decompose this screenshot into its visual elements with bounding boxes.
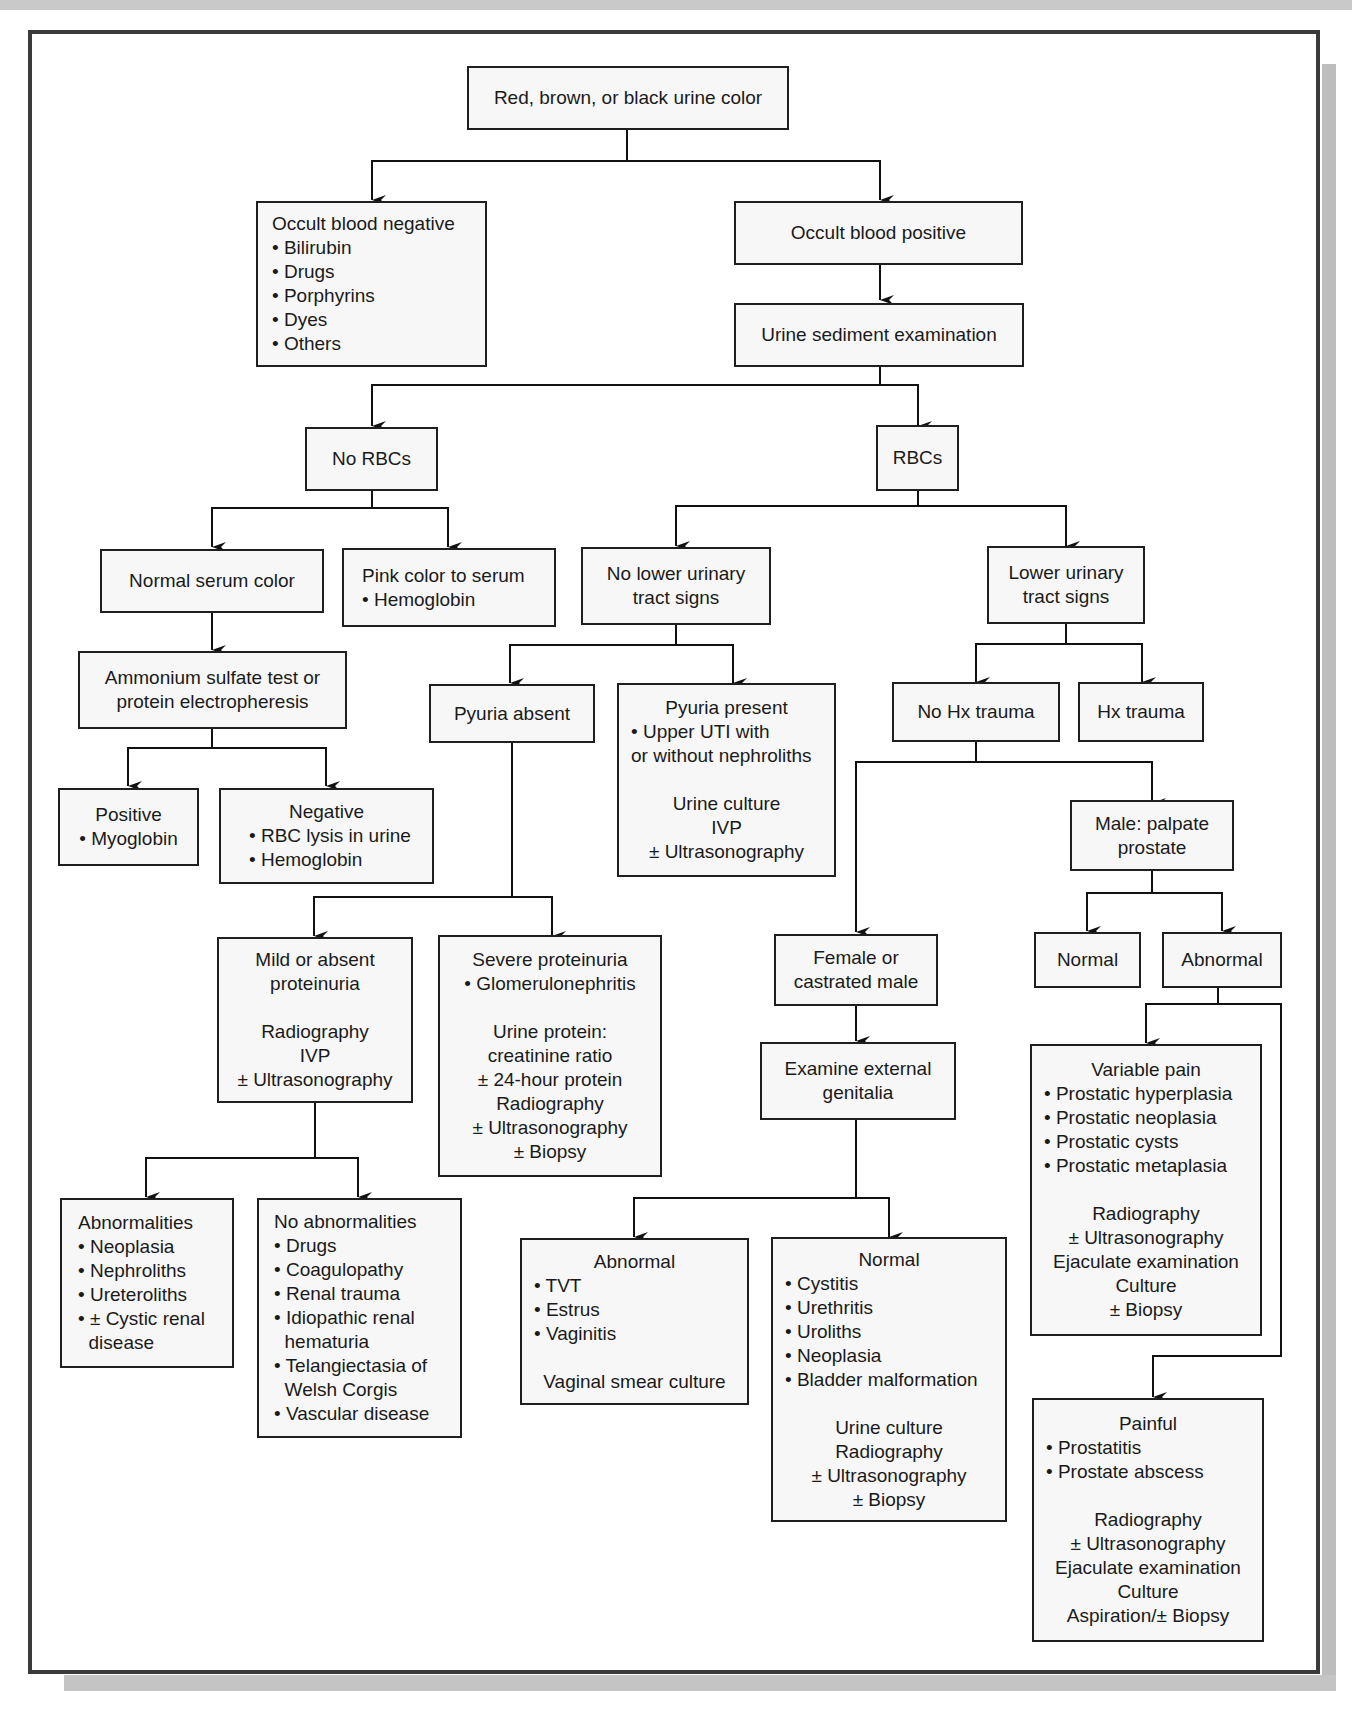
node-title: Pyuria present: [631, 696, 822, 720]
frame-shadow-right: [1322, 64, 1336, 1689]
node-line: Occult blood positive: [748, 221, 1009, 245]
spacer: [1046, 1484, 1250, 1508]
node-line: Vaginal smear culture: [534, 1370, 735, 1394]
node-line: Radiography: [1044, 1202, 1248, 1226]
node-painful: Painful • Prostatitis • Prostate abscess…: [1032, 1398, 1264, 1642]
node-female-castrated: Female or castrated male: [774, 934, 938, 1006]
node-positive: Positive • Myoglobin: [58, 788, 199, 866]
list-item: • ± Cystic renal: [78, 1307, 220, 1331]
node-line: proteinuria: [231, 972, 399, 996]
node-line: Radiography: [452, 1092, 648, 1116]
node-line: ± Ultrasonography: [231, 1068, 399, 1092]
node-line: Aspiration/± Biopsy: [1046, 1604, 1250, 1628]
node-line: Culture: [1046, 1580, 1250, 1604]
spacer: [785, 1392, 993, 1416]
node-no-rbcs: No RBCs: [305, 427, 438, 491]
node-no-lower-urinary: No lower urinary tract signs: [581, 547, 771, 625]
list-item: • TVT: [534, 1274, 735, 1298]
list-item: • Estrus: [534, 1298, 735, 1322]
node-negative: Negative • RBC lysis in urine • Hemoglob…: [219, 788, 434, 884]
node-line: Hx trauma: [1092, 700, 1190, 724]
list-item: disease: [78, 1331, 220, 1355]
node-line: Female or: [788, 946, 924, 970]
node-line: ± 24-hour protein: [452, 1068, 648, 1092]
node-line: Male: palpate: [1084, 812, 1220, 836]
node-line: ± Ultrasonography: [785, 1464, 993, 1488]
list-item: • Uroliths: [785, 1320, 993, 1344]
node-title: Variable pain: [1044, 1058, 1248, 1082]
node-line: Radiography: [231, 1020, 399, 1044]
node-normal-serum: Normal serum color: [100, 549, 324, 613]
node-line: Pyuria absent: [443, 702, 581, 726]
list-item: • Urethritis: [785, 1296, 993, 1320]
node-line: Urine sediment examination: [748, 323, 1010, 347]
node-line: Urine culture: [631, 792, 822, 816]
node-line: Examine external: [774, 1057, 942, 1081]
list-item: • Idiopathic renal: [274, 1306, 448, 1330]
node-line: ± Ultrasonography: [1044, 1226, 1248, 1250]
node-root: Red, brown, or black urine color: [467, 66, 789, 130]
node-line: ± Biopsy: [1044, 1298, 1248, 1322]
list-item: • Dyes: [272, 308, 473, 332]
node-title: Occult blood negative: [272, 212, 473, 236]
node-line: IVP: [231, 1044, 399, 1068]
node-lower-urinary: Lower urinary tract signs: [987, 546, 1145, 624]
node-line: No Hx trauma: [906, 700, 1046, 724]
list-item: • Bilirubin: [272, 236, 473, 260]
list-item: • Hemoglobin: [362, 588, 542, 612]
node-line: Mild or absent: [231, 948, 399, 972]
node-title: Severe proteinuria: [452, 948, 648, 972]
node-line: Red, brown, or black urine color: [481, 86, 775, 110]
node-pyuria-absent: Pyuria absent: [429, 684, 595, 743]
list-item: Welsh Corgis: [274, 1378, 448, 1402]
node-urine-sediment: Urine sediment examination: [734, 303, 1024, 367]
list-item: • Bladder malformation: [785, 1368, 993, 1392]
node-line: RBCs: [890, 446, 945, 470]
node-line: tract signs: [595, 586, 757, 610]
node-occult-negative: Occult blood negative • Bilirubin • Drug…: [256, 201, 487, 367]
node-line: genitalia: [774, 1081, 942, 1105]
node-line: creatinine ratio: [452, 1044, 648, 1068]
node-occult-positive: Occult blood positive: [734, 201, 1023, 265]
node-line: Lower urinary: [1001, 561, 1131, 585]
node-male-palpate-prostate: Male: palpate prostate: [1070, 800, 1234, 871]
node-line: Urine protein:: [452, 1020, 648, 1044]
node-line: Ejaculate examination: [1046, 1556, 1250, 1580]
node-title: Positive: [72, 803, 185, 827]
spacer: [534, 1346, 735, 1370]
list-item: • Prostatitis: [1046, 1436, 1250, 1460]
spacer: [231, 996, 399, 1020]
node-title: Abnormal: [534, 1250, 735, 1274]
node-title: Normal: [785, 1248, 993, 1272]
node-line: Normal serum color: [114, 569, 310, 593]
node-title: Pink color to serum: [362, 564, 542, 588]
list-item: • Renal trauma: [274, 1282, 448, 1306]
list-item: • Prostatic metaplasia: [1044, 1154, 1248, 1178]
list-item: • Prostatic neoplasia: [1044, 1106, 1248, 1130]
node-line: Urine culture: [785, 1416, 993, 1440]
list-item: • Prostate abscess: [1046, 1460, 1250, 1484]
spacer: [1044, 1178, 1248, 1202]
node-genital-abnormal: Abnormal • TVT • Estrus • Vaginitis Vagi…: [520, 1238, 749, 1405]
node-line: Radiography: [1046, 1508, 1250, 1532]
list-item: • Porphyrins: [272, 284, 473, 308]
list-item: • Others: [272, 332, 473, 356]
node-pyuria-present: Pyuria present • Upper UTI with or witho…: [617, 683, 836, 877]
list-item: • Nephroliths: [78, 1259, 220, 1283]
top-band: [0, 0, 1352, 10]
node-line: prostate: [1084, 836, 1220, 860]
node-severe-proteinuria: Severe proteinuria • Glomerulonephritis …: [438, 935, 662, 1177]
node-line: IVP: [631, 816, 822, 840]
spacer: [452, 996, 648, 1020]
list-item: • Glomerulonephritis: [452, 972, 648, 996]
node-title: Abnormalities: [78, 1211, 220, 1235]
spacer: [631, 768, 822, 792]
node-genital-normal: Normal • Cystitis • Urethritis • Urolith…: [771, 1237, 1007, 1522]
node-title: Negative: [233, 800, 420, 824]
node-line: castrated male: [788, 970, 924, 994]
node-line: Radiography: [785, 1440, 993, 1464]
node-variable-pain: Variable pain • Prostatic hyperplasia • …: [1030, 1044, 1262, 1336]
node-pink-serum: Pink color to serum • Hemoglobin: [342, 548, 556, 627]
node-line: protein electropheresis: [92, 690, 333, 714]
node-mild-proteinuria: Mild or absent proteinuria Radiography I…: [217, 937, 413, 1103]
